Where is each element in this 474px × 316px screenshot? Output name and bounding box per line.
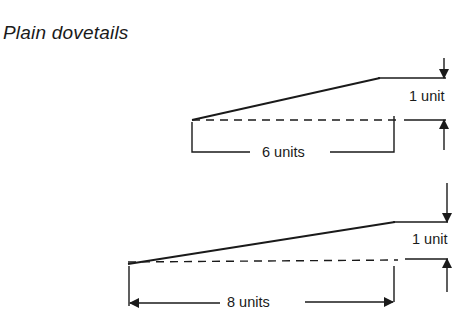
run-bracket-right <box>330 116 394 152</box>
run-bracket <box>192 122 250 152</box>
rise-label-2: 1 unit <box>408 231 451 247</box>
slope-line <box>128 222 395 264</box>
dovetail-diagram: Plain dovetails <box>0 0 474 316</box>
baseline-dashed <box>128 260 398 262</box>
run-label-2: 8 units <box>223 294 274 310</box>
figure-1-in-6 <box>192 58 446 152</box>
rise-label-1: 1 unit <box>405 88 448 104</box>
figure-1-in-8 <box>128 183 448 306</box>
run-label-1: 6 units <box>258 144 309 160</box>
diagram-drawing <box>0 0 474 316</box>
slope-line <box>192 78 380 120</box>
